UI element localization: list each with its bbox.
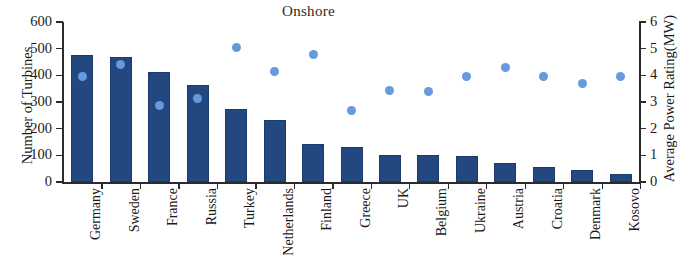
y-axis-left-tick [56,128,63,129]
dot-germany [78,72,87,81]
dot-finland [309,50,318,59]
x-axis-label-greece: Greece [358,188,374,228]
dot-netherlands [270,67,279,76]
dot-greece [347,106,356,115]
y-axis-right-tick [639,155,646,156]
y-axis-left-tick [56,48,63,49]
plot-area [63,22,640,182]
y-axis-right-tick [639,128,646,129]
chart-title: Onshore [0,3,677,20]
x-axis-label-netherlands: Netherlands [281,188,297,256]
y-axis-right-tick [639,75,646,76]
x-axis-label-turkey: Turkey [242,188,258,228]
y-axis-left-tick-label: 600 [6,13,52,30]
x-axis-label-kosovo: Kosovo [627,188,643,232]
bar-sweden [110,57,132,182]
dot-uk [385,86,394,95]
y-axis-left-tick [56,101,63,102]
dot-belgium [424,87,433,96]
bar-netherlands [264,120,286,182]
bar-austria [494,163,516,182]
y-axis-right-tick-label: 4 [650,66,680,83]
y-axis-left-tick [56,75,63,76]
dot-ukraine [462,72,471,81]
bar-finland [302,144,324,182]
y-axis-left-tick-label: 500 [6,40,52,57]
bar-kosovo [610,174,632,182]
dot-austria [501,63,510,72]
y-axis-left-tick [56,181,63,182]
y-axis-left-tick-label: 0 [6,173,52,190]
y-axis-right-tick [639,48,646,49]
x-axis-label-finland: Finland [319,188,335,231]
x-axis-label-sweden: Sweden [127,188,143,232]
bar-belgium [417,155,439,182]
y-axis-left-tick [56,21,63,22]
bar-denmark [571,170,593,182]
x-axis-label-france: France [165,188,181,226]
bar-uk [379,155,401,182]
y-axis-right-tick-label: 6 [650,13,680,30]
y-axis-left-tick-label: 200 [6,120,52,137]
y-axis-right-tick [639,21,646,22]
y-axis-left-tick-label: 400 [6,66,52,83]
x-axis-label-croatia: Croatia [550,188,566,229]
y-axis-right-tick [639,101,646,102]
y-axis-right-tick-label: 3 [650,93,680,110]
dot-kosovo [616,72,625,81]
x-axis-label-russia: Russia [204,188,220,225]
bar-croatia [533,167,555,182]
y-axis-right-tick-label: 0 [650,173,680,190]
dot-croatia [539,72,548,81]
y-axis-right-tick-label: 2 [650,120,680,137]
dot-denmark [578,79,587,88]
y-axis-left-tick-label: 100 [6,146,52,163]
bar-ukraine [456,156,478,182]
x-axis-line [62,182,641,184]
bar-turkey [225,109,247,182]
dot-france [155,101,164,110]
y-axis-right-tick-label: 1 [650,146,680,163]
x-axis-label-uk: UK [396,188,412,208]
x-axis-label-ukraine: Ukraine [473,188,489,233]
y-axis-left-tick [56,155,63,156]
x-axis-label-denmark: Denmark [588,188,604,240]
dot-turkey [232,43,241,52]
x-axis-label-germany: Germany [88,188,104,240]
bar-france [148,72,170,182]
y-axis-right-tick-label: 5 [650,40,680,57]
bar-greece [341,147,363,182]
x-axis-label-austria: Austria [511,188,527,229]
y-axis-left-tick-label: 300 [6,93,52,110]
x-axis-label-belgium: Belgium [434,188,450,236]
chart-title-text: Onshore [282,3,335,19]
